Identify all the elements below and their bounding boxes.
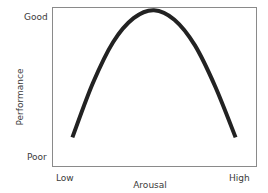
y-axis-title: Performance [15,68,25,125]
x-tick-high: High [229,173,250,183]
x-axis-title: Arousal [133,180,167,190]
inverted-u-chart: Good Poor Low High Arousal Performance [0,0,268,193]
plot-frame [53,8,257,167]
x-tick-low: Low [56,173,74,183]
y-tick-poor: Poor [27,152,47,162]
performance-curve [72,10,235,137]
chart-plot [0,0,268,193]
y-tick-good: Good [24,12,48,22]
